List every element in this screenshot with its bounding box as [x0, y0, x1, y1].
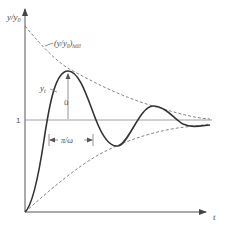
upper-envelope-curve — [25, 26, 210, 119]
damped-oscillation-diagram: y/y0 t 1 (y/y0)hüll yt ü π/ω — [0, 0, 232, 228]
response-curve — [25, 71, 210, 212]
curve-label: yt — [39, 83, 46, 94]
period-label: π/ω — [61, 136, 73, 145]
y-axis-label: y/y0 — [6, 12, 21, 23]
envelope-label-leader — [45, 43, 53, 46]
level-one-label: 1 — [16, 116, 21, 125]
lower-envelope-curve — [25, 124, 210, 212]
x-axis-label: t — [213, 212, 216, 222]
envelope-label: (y/y0)hüll — [54, 38, 81, 49]
overshoot-label: ü — [64, 98, 68, 107]
